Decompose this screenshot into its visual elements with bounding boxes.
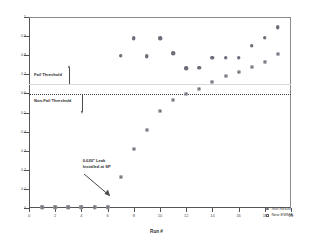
y-tick-label: 0.1: [21, 187, 26, 191]
x-tick-label: 10: [152, 213, 168, 218]
data-point-test-result: [133, 37, 136, 40]
legend-marker-new-ewma-icon: [266, 214, 269, 217]
non-fail-threshold-arrow-head: [81, 111, 83, 114]
data-point-test-result: [185, 67, 188, 70]
legend-item-label: New EWMA: [271, 212, 293, 218]
y-tick-label: 0.2: [21, 168, 26, 172]
x-tick-label: 12: [178, 213, 194, 218]
y-tick-label: 0.6: [21, 91, 26, 95]
y-tick-label: 0.8: [21, 53, 26, 57]
data-point-new-ewma: [54, 206, 57, 209]
data-point-center: [55, 207, 56, 208]
data-point-test-result: [224, 56, 227, 59]
data-point-center: [212, 81, 213, 82]
data-point-new-ewma: [80, 206, 83, 209]
fail-threshold-arrow-head: [68, 65, 70, 68]
data-point-new-ewma: [106, 206, 109, 209]
data-point-new-ewma: [67, 206, 70, 209]
data-point-center: [251, 67, 252, 68]
fail-threshold-label: Fail Threshold: [34, 72, 62, 77]
data-point-new-ewma: [237, 71, 240, 74]
x-tick-label: 2: [47, 213, 63, 218]
x-tick-label: 14: [204, 213, 220, 218]
data-point-new-ewma: [159, 110, 162, 113]
data-point-new-ewma: [250, 66, 253, 69]
data-point-test-result: [146, 55, 149, 58]
x-tick-label: 6: [100, 213, 116, 218]
x-tick: [134, 208, 135, 212]
data-point-new-ewma: [276, 53, 279, 56]
x-tick: [239, 208, 240, 212]
plot-top-border: [29, 17, 291, 18]
data-point-new-ewma: [198, 87, 201, 90]
x-tick: [160, 208, 161, 212]
data-point-center: [277, 54, 278, 55]
y-tick-label: 0.4: [21, 130, 26, 134]
x-tick-label: 16: [231, 213, 247, 218]
y-tick-label: 0.5: [21, 111, 26, 115]
x-axis-title: Run #: [0, 229, 313, 234]
non-fail-threshold-arrow: [82, 95, 83, 111]
x-tick: [212, 208, 213, 212]
x-tick-label: 0: [21, 213, 37, 218]
leak-annotation-arrow: [82, 172, 122, 204]
data-point-new-ewma: [41, 206, 44, 209]
data-point-test-result: [277, 26, 280, 29]
x-tick: [186, 208, 187, 212]
data-point-new-ewma: [185, 92, 188, 95]
y-tick-label: 0.9: [21, 34, 26, 38]
data-point-test-result: [237, 56, 240, 59]
y-tick-label: 1: [24, 15, 26, 19]
data-point-center: [107, 207, 108, 208]
data-point-test-result: [250, 45, 253, 48]
data-point-test-result: [159, 37, 162, 40]
data-point-new-ewma: [224, 75, 227, 78]
legend-marker-test-result-icon: [266, 208, 269, 211]
x-tick-label: 4: [73, 213, 89, 218]
data-point-center: [186, 93, 187, 94]
data-point-center: [159, 111, 160, 112]
data-point-test-result: [264, 36, 267, 39]
data-point-center: [199, 88, 200, 89]
data-point-test-result: [198, 66, 201, 69]
data-point-center: [42, 207, 43, 208]
plot-right-border: [290, 17, 291, 208]
data-point-center: [81, 207, 82, 208]
data-point-center: [120, 177, 121, 178]
data-point-new-ewma: [172, 99, 175, 102]
data-point-center: [173, 100, 174, 101]
chart-container: 00.10.20.30.40.50.60.70.80.91 0246810121…: [0, 0, 313, 248]
data-point-center: [238, 72, 239, 73]
data-point-new-ewma: [263, 60, 266, 63]
data-point-center: [94, 207, 95, 208]
data-point-test-result: [172, 52, 175, 55]
data-point-test-result: [211, 56, 214, 59]
data-point-new-ewma: [119, 176, 122, 179]
data-point-center: [264, 61, 265, 62]
data-point-new-ewma: [211, 80, 214, 83]
data-point-new-ewma: [93, 206, 96, 209]
data-point-center: [133, 149, 134, 150]
non-fail-threshold-label: Non-Fail Threshold: [34, 98, 71, 103]
y-tick-label: 0.7: [21, 72, 26, 76]
leak-annotation-line2: Installed at SP: [83, 164, 111, 170]
data-point-center: [68, 207, 69, 208]
data-point-new-ewma: [145, 128, 148, 131]
leak-annotation: 0.020" Leak Installed at SP: [83, 158, 111, 169]
data-point-center: [225, 76, 226, 77]
chart-legend: Test ResultNew EWMA: [266, 206, 293, 218]
fail-threshold-arrow: [69, 68, 70, 85]
data-point-test-result: [119, 54, 122, 57]
legend-item: New EWMA: [266, 212, 293, 218]
y-tick-label: 0.3: [21, 149, 26, 153]
x-tick-label: 8: [126, 213, 142, 218]
y-tick-label: 0: [24, 206, 26, 210]
data-point-new-ewma: [132, 148, 135, 151]
x-tick: [29, 208, 30, 212]
non-fail-threshold-line: [29, 94, 291, 95]
data-point-center: [146, 129, 147, 130]
